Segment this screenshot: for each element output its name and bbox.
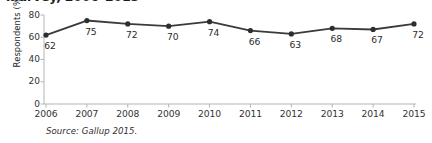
plot-area: 62757270746663686772 — [44, 15, 416, 104]
x-axis-tick-labels: 2006200720082009201020112012201320142015 — [44, 106, 416, 120]
x-tick-label: 2011 — [239, 108, 262, 119]
y-axis-tick-labels: 806040200 — [16, 15, 40, 104]
chart-figure: Respondents (%) 806040200 62757270746663… — [0, 0, 432, 143]
data-point-label: 68 — [330, 33, 342, 44]
data-point-label: 72 — [126, 29, 138, 40]
x-tick-label: 2006 — [35, 108, 58, 119]
data-point-label: 74 — [208, 27, 220, 38]
data-point-label: 75 — [85, 26, 97, 37]
x-tick-label: 2012 — [280, 108, 303, 119]
data-point-label: 62 — [44, 40, 56, 51]
source-note: Source: Gallup 2015. — [46, 126, 137, 136]
y-tick-label: 60 — [18, 33, 40, 42]
data-point-label: 66 — [249, 36, 261, 47]
x-tick-label: 2013 — [321, 108, 344, 119]
x-tick-label: 2015 — [403, 108, 426, 119]
data-point-label: 70 — [167, 31, 179, 42]
y-tick-label: 20 — [18, 77, 40, 86]
data-point-label: 72 — [412, 29, 424, 40]
x-tick-label: 2007 — [75, 108, 98, 119]
x-tick-label: 2014 — [362, 108, 385, 119]
y-tick-label: 80 — [18, 11, 40, 20]
x-tick-label: 2009 — [157, 108, 180, 119]
data-point-label: 63 — [290, 39, 302, 50]
x-tick-label: 2008 — [116, 108, 139, 119]
y-tick-label: 40 — [18, 55, 40, 64]
x-tick-label: 2010 — [198, 108, 221, 119]
data-point-label: 67 — [371, 34, 383, 45]
line-chart-svg — [44, 15, 416, 104]
